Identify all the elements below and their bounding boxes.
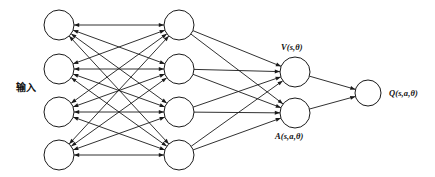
- input-layer-node: [44, 10, 74, 40]
- edge-arrowhead: [74, 23, 79, 27]
- edge-arrowhead: [161, 78, 166, 83]
- value-stream-label: V(s,θ): [281, 43, 303, 52]
- hidden-layer-node: [164, 97, 194, 127]
- edge-arrowhead: [73, 30, 79, 34]
- edge-arrowhead: [73, 60, 79, 64]
- edge-arrowhead: [159, 67, 164, 71]
- edge-arrowhead: [161, 99, 166, 104]
- input-layer-label: 输入: [16, 83, 36, 93]
- edge-arrowhead: [73, 146, 79, 150]
- edge-arrowhead: [159, 60, 165, 64]
- connection-edge: [194, 69, 280, 71]
- connection-edge: [309, 96, 355, 109]
- hidden-layer-node: [164, 54, 194, 84]
- edge-arrowhead: [276, 63, 282, 67]
- input-layer-node: [44, 54, 74, 84]
- nodes-group: [44, 10, 381, 170]
- edge-arrowhead: [73, 103, 79, 107]
- edge-arrowhead: [159, 153, 164, 157]
- edge-arrowhead: [73, 117, 79, 121]
- edge-arrowhead: [278, 99, 283, 104]
- output-node-label: Q(s,a,θ): [389, 89, 418, 98]
- connection-edge: [193, 118, 281, 150]
- stream-layer-node: [280, 98, 310, 128]
- edge-arrowhead: [71, 99, 76, 104]
- edge-arrowhead: [275, 118, 281, 122]
- edge-arrowhead: [74, 153, 79, 157]
- edge-arrowhead: [350, 96, 356, 100]
- edges-group: [69, 23, 355, 157]
- edge-arrowhead: [74, 67, 79, 71]
- edge-arrowhead: [277, 81, 282, 86]
- advantage-stream-label: A(s,a,θ): [275, 132, 303, 141]
- hidden-layer-node: [164, 140, 194, 170]
- connection-edge: [191, 34, 283, 104]
- input-layer-node: [44, 97, 74, 127]
- edge-arrowhead: [275, 104, 281, 108]
- connection-edge: [194, 112, 280, 113]
- hidden-layer-node: [164, 10, 194, 40]
- stream-layer-node: [280, 57, 310, 87]
- neural-network-diagram: 输入 V(s,θ) A(s,a,θ) Q(s,a,θ): [0, 0, 435, 177]
- output-layer-node: [355, 80, 381, 106]
- edge-arrowhead: [275, 111, 280, 115]
- edge-arrowhead: [159, 74, 165, 78]
- edge-arrowhead: [159, 146, 165, 150]
- connection-edge: [309, 76, 355, 89]
- edge-arrowhead: [71, 78, 76, 83]
- edge-arrowhead: [159, 23, 164, 27]
- input-layer-node: [44, 140, 74, 170]
- edge-arrowhead: [159, 117, 165, 121]
- edge-arrowhead: [73, 74, 79, 78]
- connection-edge: [193, 31, 281, 67]
- edge-arrowhead: [350, 86, 356, 90]
- edge-arrowhead: [159, 30, 165, 34]
- edge-arrowhead: [74, 110, 79, 114]
- edge-arrowhead: [275, 70, 280, 74]
- edge-arrowhead: [275, 77, 281, 81]
- edge-arrowhead: [159, 110, 164, 114]
- edge-arrowhead: [159, 103, 165, 107]
- network-graph-canvas: [0, 0, 435, 177]
